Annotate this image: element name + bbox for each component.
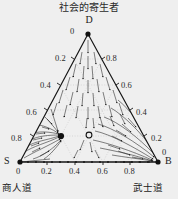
simplex-gridlines — [33, 59, 144, 162]
bottom-edge-orbit — [20, 161, 158, 163]
fixed-point-unstable-interior[interactable] — [86, 132, 92, 138]
right-axis-tick-2: 0.4 — [136, 108, 147, 117]
ternary-phase-portrait: 社会的寄生者 D S B 商人道 武士道 0 0.2 0.4 0.6 0.8 0… — [0, 0, 178, 199]
fixed-point-vertex-d[interactable] — [85, 31, 90, 36]
flow-trajectories-right — [93, 92, 155, 161]
right-axis-tick-0: 0.8 — [106, 54, 117, 63]
right-axis-tick-3: 0.2 — [151, 134, 162, 143]
flow-field — [22, 40, 155, 162]
fixed-point-vertex-b[interactable] — [155, 159, 160, 164]
right-axis-tick-1: 0.6 — [121, 81, 132, 90]
bottom-axis-tick-0: 0 — [16, 167, 20, 176]
left-axis-tick-0: 0 — [70, 27, 74, 36]
caption-bottom-left: 商人道 — [2, 184, 32, 194]
fixed-point-vertex-s[interactable] — [17, 159, 22, 164]
left-axis-tick-4: 0.8 — [11, 134, 22, 143]
caption-bottom-right: 武士道 — [133, 184, 163, 194]
simplex-triangle-outline — [20, 34, 158, 162]
vertex-label-b: B — [165, 156, 172, 166]
bottom-axis-tick-1: 0.2 — [41, 167, 52, 176]
simplex-plot-canvas — [0, 0, 178, 199]
left-axis-tick-3: 0.6 — [26, 108, 37, 117]
left-axis-tick-1: 0.2 — [55, 54, 66, 63]
vertex-label-d: D — [0, 15, 178, 25]
bottom-axis-tick-3: 0.6 — [97, 167, 108, 176]
vertex-label-s: S — [4, 156, 10, 166]
left-axis-tick-2: 0.4 — [40, 81, 51, 90]
flow-separatrix — [74, 140, 99, 158]
bottom-axis-tick-2: 0.4 — [69, 167, 80, 176]
right-axis-tick-4: 0 — [162, 148, 166, 157]
figure-title: 社会的寄生者 — [0, 3, 178, 13]
bottom-axis-tick-4: 0.8 — [124, 167, 135, 176]
fixed-point-stable-interior[interactable] — [58, 133, 64, 139]
